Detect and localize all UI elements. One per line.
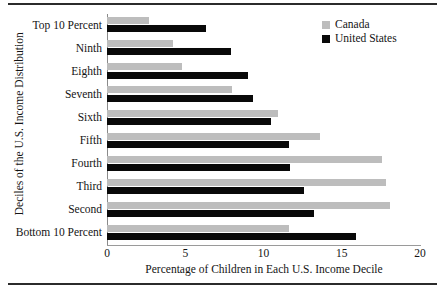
category-row: Sixth — [107, 106, 420, 129]
bar-canada — [107, 86, 232, 93]
bar-united-states — [107, 210, 314, 217]
bar-united-states — [107, 72, 248, 79]
category-row: Seventh — [107, 83, 420, 106]
legend-entry: United States — [322, 32, 397, 46]
y-axis-tick-label: Third — [76, 181, 102, 193]
x-axis-line — [107, 245, 421, 246]
bar-canada — [107, 202, 390, 209]
plot-area: Top 10 PercentNinthEighthSeventhSixthFif… — [107, 14, 420, 245]
y-axis-tick-label: Sixth — [78, 112, 102, 124]
y-axis-title: Deciles of the U.S. Income Distribution — [14, 8, 26, 240]
legend-label: United States — [335, 33, 397, 45]
y-axis-tick-label: Seventh — [65, 89, 102, 101]
bar-united-states — [107, 141, 289, 148]
bar-united-states — [107, 187, 304, 194]
bar-canada — [107, 156, 382, 163]
bar-canada — [107, 110, 278, 117]
x-axis-tick-label: 20 — [414, 248, 426, 260]
legend-entry: Canada — [322, 18, 397, 32]
x-axis-tick-label: 15 — [336, 248, 348, 260]
bar-canada — [107, 17, 149, 24]
bar-united-states — [107, 118, 271, 125]
bottom-rule — [8, 283, 437, 285]
bar-united-states — [107, 95, 253, 102]
bar-united-states — [107, 164, 290, 171]
category-row: Fourth — [107, 153, 420, 176]
bar-chart-figure: Top 10 PercentNinthEighthSeventhSixthFif… — [0, 0, 445, 294]
bar-canada — [107, 133, 320, 140]
bar-canada — [107, 40, 173, 47]
top-rule — [8, 3, 437, 5]
bar-united-states — [107, 48, 231, 55]
x-axis-tick-label: 0 — [104, 248, 110, 260]
united-states-swatch — [322, 35, 330, 43]
bar-canada — [107, 225, 289, 232]
chart-legend: CanadaUnited States — [322, 18, 397, 46]
bar-canada — [107, 179, 386, 186]
y-axis-tick-label: Top 10 Percent — [33, 20, 102, 32]
x-axis-tick-label: 5 — [182, 248, 188, 260]
y-axis-tick-label: Fourth — [71, 158, 102, 170]
category-row: Eighth — [107, 60, 420, 83]
x-axis-tick-label: 10 — [258, 248, 270, 260]
y-axis-tick-label: Eighth — [71, 66, 102, 78]
bar-canada — [107, 63, 182, 70]
bar-united-states — [107, 233, 356, 240]
x-axis-title: Percentage of Children in Each U.S. Inco… — [107, 264, 421, 276]
y-axis-tick-label: Ninth — [76, 43, 102, 55]
canada-swatch — [322, 21, 330, 29]
category-row: Second — [107, 199, 420, 222]
legend-label: Canada — [335, 19, 369, 31]
category-row: Fifth — [107, 130, 420, 153]
bar-united-states — [107, 25, 206, 32]
category-row: Bottom 10 Percent — [107, 222, 420, 245]
y-axis-tick-label: Fifth — [80, 135, 102, 147]
y-axis-tick-label: Second — [68, 205, 102, 217]
y-axis-tick-label: Bottom 10 Percent — [16, 228, 102, 240]
category-row: Third — [107, 176, 420, 199]
